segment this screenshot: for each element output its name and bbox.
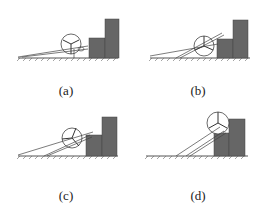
step-low [89, 38, 105, 58]
wheel [62, 128, 82, 148]
step-high [102, 117, 117, 156]
step-low [217, 39, 233, 58]
caption-c: (c) [0, 188, 132, 204]
panel-b: (b) [132, 0, 264, 105]
ground [149, 58, 250, 61]
caption-b: (b) [132, 83, 264, 99]
step-high [105, 19, 119, 58]
ground [145, 156, 248, 159]
diagram-c [0, 105, 132, 185]
step-high [229, 119, 245, 156]
pivot-foot [78, 47, 84, 51]
panel-d: (d) [132, 105, 264, 210]
caption-d: (d) [132, 188, 264, 204]
diagram-a [0, 0, 132, 80]
step-high [233, 20, 248, 58]
diagram-d [132, 105, 264, 185]
panel-c: (c) [0, 105, 132, 210]
arm [18, 132, 93, 156]
ground [17, 58, 118, 61]
arm [150, 33, 224, 58]
diagram-b [132, 0, 264, 80]
ground [17, 156, 118, 159]
panel-a: (a) [0, 0, 132, 105]
caption-a: (a) [0, 83, 132, 99]
wheel [207, 112, 229, 134]
